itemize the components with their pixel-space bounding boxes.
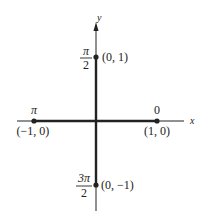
point-left — [31, 118, 36, 123]
point-right — [154, 118, 159, 123]
point-top — [93, 54, 98, 59]
right-angle-label: 0 — [154, 103, 160, 117]
x-axis-label: x — [189, 115, 195, 126]
diagram-canvas: y x π 2 (0, 1) π (−1, 0) 0 (1, 0) 3π 2 (… — [0, 0, 211, 221]
bottom-angle-numerator: 3π — [77, 171, 91, 185]
bottom-coord-label: (0, −1) — [101, 178, 134, 192]
point-bottom — [93, 182, 98, 187]
bottom-angle-denominator: 2 — [81, 186, 87, 200]
top-coord-label: (0, 1) — [102, 50, 128, 64]
right-coord-label: (1, 0) — [144, 124, 170, 138]
y-axis-label: y — [96, 12, 102, 23]
top-angle-denominator: 2 — [83, 58, 89, 72]
coordinate-diagram: y x π 2 (0, 1) π (−1, 0) 0 (1, 0) 3π 2 (… — [0, 0, 211, 221]
top-angle-numerator: π — [83, 44, 90, 58]
left-angle-label: π — [31, 103, 38, 117]
y-axis-arrow-icon — [94, 22, 99, 31]
left-coord-label: (−1, 0) — [17, 124, 50, 138]
